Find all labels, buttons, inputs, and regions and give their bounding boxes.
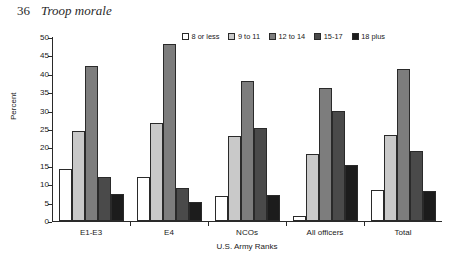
y-tick-label: 30 (40, 107, 49, 116)
bar-group-e1-e3 (59, 37, 124, 221)
y-tick-label: 25 (40, 125, 49, 134)
bar-group-total (371, 37, 436, 221)
bar (215, 196, 228, 221)
y-tick-label: 20 (40, 143, 49, 152)
y-axis-line (52, 37, 53, 222)
x-tick-mark (364, 222, 365, 226)
y-tick-label: 45 (40, 51, 49, 60)
bar (423, 191, 436, 221)
bar (72, 131, 85, 221)
bar-chart-figure: 8 or less9 to 1112 to 1415-1718 plus Per… (0, 24, 454, 266)
bar (410, 151, 423, 221)
bar (371, 190, 384, 221)
x-axis-label: E1-E3 (80, 228, 102, 237)
bar (189, 202, 202, 222)
page-number: 36 (17, 3, 30, 19)
bar (150, 123, 163, 221)
y-tick-label: 5 (45, 199, 49, 208)
bar (397, 69, 410, 221)
bar (137, 177, 150, 221)
bar-group-e4 (137, 37, 202, 221)
bar-group-all-officers (293, 37, 358, 221)
x-axis-label: E4 (164, 228, 174, 237)
y-tick-label: 50 (40, 33, 49, 42)
bar (59, 169, 72, 221)
y-tick-label: 0 (45, 217, 49, 226)
bar (176, 188, 189, 221)
y-tick-label: 40 (40, 70, 49, 79)
bar (306, 154, 319, 221)
page-header: 36 Troop morale (17, 3, 112, 19)
y-tick-label: 15 (40, 162, 49, 171)
bar-group-ncos (215, 37, 280, 221)
y-tick-label: 10 (40, 180, 49, 189)
bar (384, 135, 397, 221)
y-axis-title: Percent (9, 92, 18, 120)
bar (293, 216, 306, 221)
bar (267, 195, 280, 221)
bar (228, 136, 241, 221)
x-axis-label: All officers (307, 228, 344, 237)
plot-area: 05101520253035404550 E1-E3E4NCOsAll offi… (52, 37, 442, 222)
bar (85, 66, 98, 221)
running-title: Troop morale (41, 3, 112, 19)
bar (332, 111, 345, 221)
x-axis-line (52, 221, 442, 222)
x-axis-label: NCOs (236, 228, 258, 237)
x-tick-mark (130, 222, 131, 226)
x-tick-mark (208, 222, 209, 226)
bar (111, 194, 124, 221)
bar (319, 88, 332, 221)
bar (241, 81, 254, 221)
bar (163, 44, 176, 221)
y-tick-label: 35 (40, 88, 49, 97)
bar (345, 165, 358, 221)
x-axis-label: Total (395, 228, 412, 237)
x-tick-mark (286, 222, 287, 226)
x-axis-title: U.S. Army Ranks (52, 242, 442, 251)
bar (98, 177, 111, 221)
bar (254, 128, 267, 221)
